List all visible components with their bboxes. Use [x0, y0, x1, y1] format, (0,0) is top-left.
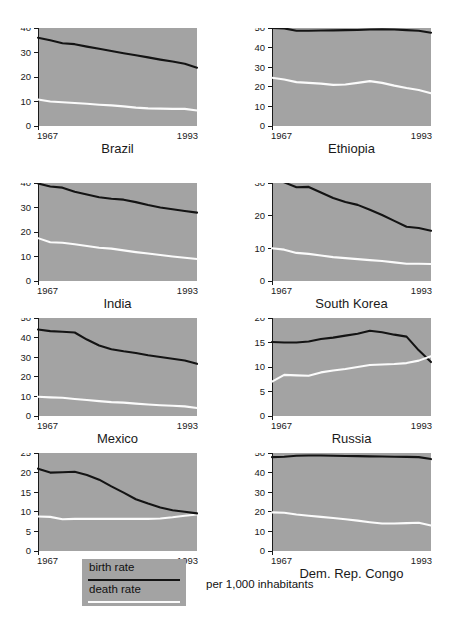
y-tick-label: 0: [260, 275, 265, 286]
y-tick-label: 0: [260, 545, 265, 556]
y-tick-label: 0: [26, 410, 31, 421]
y-tick-label: 10: [20, 391, 31, 402]
x-axis-start-label: 1967: [37, 130, 58, 141]
legend-swatch-birth-rate: [88, 579, 180, 581]
y-tick-label: 20: [20, 71, 31, 82]
panel-india: 01020304019671993India: [2, 183, 209, 317]
legend-label-birth-rate: birth rate: [89, 561, 134, 573]
y-tick-label: 10: [254, 526, 265, 537]
panel-south-korea: 010203019671993South Korea: [236, 183, 443, 317]
x-axis-start-label: 1967: [271, 130, 292, 141]
plot-background: [38, 453, 197, 551]
legend: birth rate death rate: [82, 559, 186, 606]
y-tick-label: 0: [260, 410, 265, 421]
x-axis-start-label: 1967: [271, 285, 292, 296]
y-tick-label: 0: [26, 275, 31, 286]
y-tick-label: 30: [254, 62, 265, 73]
small-multiples-figure: 01020304019671993Brazil01020304050196719…: [0, 0, 466, 637]
panel-dem-rep-congo: 0102030405019671993Dem. Rep. Congo: [236, 453, 443, 587]
panel-mexico: 0102030405019671993Mexico: [2, 318, 209, 452]
y-tick-label: 20: [254, 506, 265, 517]
y-tick-label: 20: [20, 467, 31, 478]
x-axis-end-label: 1993: [411, 555, 432, 566]
x-axis-end-label: 1993: [177, 130, 198, 141]
units-caption: per 1,000 inhabitants: [206, 578, 313, 590]
x-axis-start-label: 1967: [37, 555, 58, 566]
legend-label-death-rate: death rate: [89, 583, 141, 595]
plot-background: [272, 28, 431, 126]
y-tick-label: 5: [26, 526, 31, 537]
panel-title: Brazil: [101, 141, 134, 156]
panel-title: Dem. Rep. Congo: [299, 566, 403, 581]
y-tick-label: 10: [254, 361, 265, 372]
y-tick-label: 10: [254, 243, 265, 254]
y-tick-label: 25: [20, 453, 31, 458]
y-tick-label: 10: [20, 96, 31, 107]
legend-swatch-death-rate: [88, 601, 180, 603]
x-axis-end-label: 1993: [411, 420, 432, 431]
panel-ethiopia: 0102030405019671993Ethiopia: [236, 28, 443, 162]
y-tick-label: 10: [254, 101, 265, 112]
y-tick-label: 30: [254, 487, 265, 498]
x-axis-end-label: 1993: [411, 130, 432, 141]
x-axis-end-label: 1993: [411, 285, 432, 296]
y-tick-label: 10: [20, 506, 31, 517]
y-tick-label: 50: [254, 28, 265, 33]
y-tick-label: 40: [20, 183, 31, 188]
panel-russia: 0510152019671993Russia: [236, 318, 443, 452]
plot-background: [272, 453, 431, 551]
panel-title: India: [103, 296, 132, 311]
y-tick-label: 0: [26, 545, 31, 556]
y-tick-label: 20: [20, 371, 31, 382]
panel-title: Mexico: [97, 431, 138, 446]
y-tick-label: 50: [254, 453, 265, 458]
y-tick-label: 40: [20, 332, 31, 343]
y-tick-label: 15: [20, 487, 31, 498]
y-tick-label: 40: [254, 467, 265, 478]
y-tick-label: 10: [20, 251, 31, 262]
panel-title: Russia: [332, 431, 373, 446]
legend-item-death-rate: death rate: [82, 582, 186, 605]
x-axis-start-label: 1967: [271, 420, 292, 431]
y-tick-label: 20: [20, 226, 31, 237]
panel-title: South Korea: [315, 296, 388, 311]
y-tick-label: 30: [20, 352, 31, 363]
y-tick-label: 15: [254, 337, 265, 348]
legend-item-birth-rate: birth rate: [82, 560, 186, 583]
y-tick-label: 5: [260, 386, 265, 397]
y-tick-label: 30: [254, 183, 265, 188]
y-tick-label: 50: [20, 318, 31, 323]
x-axis-start-label: 1967: [37, 285, 58, 296]
x-axis-end-label: 1993: [177, 420, 198, 431]
panel-brazil: 01020304019671993Brazil: [2, 28, 209, 162]
y-tick-label: 20: [254, 210, 265, 221]
x-axis-start-label: 1967: [37, 420, 58, 431]
y-tick-label: 30: [20, 202, 31, 213]
y-tick-label: 40: [20, 28, 31, 33]
y-tick-label: 0: [260, 120, 265, 131]
x-axis-start-label: 1967: [271, 555, 292, 566]
y-tick-label: 0: [26, 120, 31, 131]
y-tick-label: 20: [254, 81, 265, 92]
y-tick-label: 40: [254, 42, 265, 53]
panel-title: Ethiopia: [328, 141, 376, 156]
x-axis-end-label: 1993: [177, 285, 198, 296]
plot-background: [38, 183, 197, 281]
y-tick-label: 20: [254, 318, 265, 323]
y-tick-label: 30: [20, 47, 31, 58]
plot-background: [272, 183, 431, 281]
